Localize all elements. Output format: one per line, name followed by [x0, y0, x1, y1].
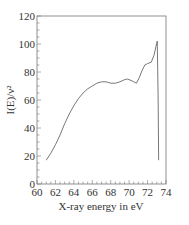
x-axis-title: X-ray energy in eV: [58, 200, 143, 212]
y-tick-label: 20: [24, 150, 36, 162]
x-tick-label: 74: [161, 186, 173, 198]
x-tick-label: 62: [50, 186, 61, 198]
xray-spectrum-chart: 6062646668707274 020406080100120 X-ray e…: [0, 0, 189, 225]
y-axis-ticks: [37, 16, 41, 184]
x-tick-label: 70: [124, 186, 136, 198]
x-tick-label: 72: [142, 186, 153, 198]
y-tick-label: 120: [19, 10, 36, 22]
y-tick-label: 60: [24, 94, 36, 106]
y-axis-title: I(E)/ν²: [4, 85, 17, 115]
y-tick-label: 0: [30, 178, 36, 190]
y-axis-tick-labels: 020406080100120: [19, 10, 36, 190]
x-tick-label: 66: [87, 186, 99, 198]
y-tick-label: 100: [19, 38, 36, 50]
x-axis-ticks: [37, 180, 166, 184]
spectrum-line: [46, 41, 158, 160]
plot-frame: [37, 16, 166, 184]
y-tick-label: 80: [24, 66, 36, 78]
y-tick-label: 40: [24, 122, 36, 134]
x-axis-tick-labels: 6062646668707274: [32, 186, 173, 198]
x-tick-label: 64: [68, 186, 80, 198]
x-tick-label: 68: [105, 186, 117, 198]
